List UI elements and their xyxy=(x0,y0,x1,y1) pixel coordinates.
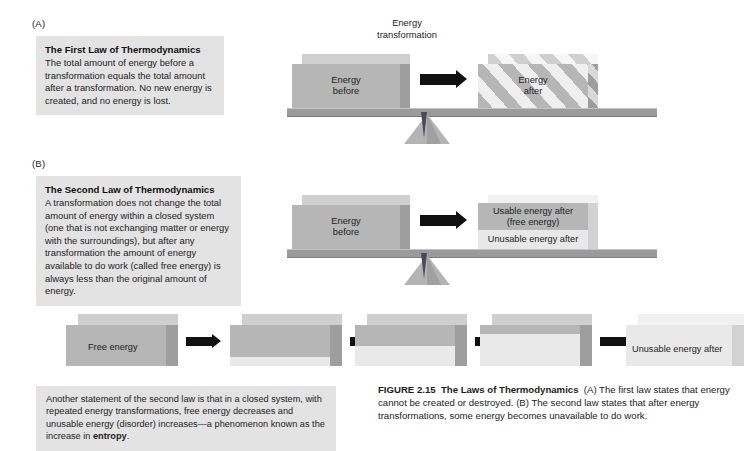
block-side-face xyxy=(732,325,744,366)
second-law-body: A transformation does not change the tot… xyxy=(45,197,232,298)
fulcrum-needle-a xyxy=(421,112,427,138)
energy-before-block-a: Energy before xyxy=(292,54,410,108)
arrow-shaft xyxy=(600,337,628,346)
block-side-face xyxy=(455,325,467,366)
block-side-face xyxy=(400,205,410,249)
block-top-face xyxy=(367,314,467,325)
sequence-block-4 xyxy=(480,314,592,366)
arrow-head xyxy=(456,70,467,88)
block-front-face: Energy after xyxy=(478,64,588,108)
panel-b-letter: (B) xyxy=(32,158,45,169)
arrow-shaft xyxy=(420,74,458,85)
second-law-title: The Second Law of Thermodynamics xyxy=(45,183,232,196)
block-front-face xyxy=(230,325,330,366)
block-top-face xyxy=(488,195,598,203)
block-side-face xyxy=(166,325,178,366)
block-top-face xyxy=(242,314,342,325)
energy-before-line2-b: before xyxy=(333,227,359,239)
free-energy-region xyxy=(480,325,580,334)
entropy-note-box: Another statement of the second law is t… xyxy=(36,386,336,451)
transformation-arrow-a xyxy=(420,70,472,88)
arrow-shaft xyxy=(420,215,458,226)
block-top-face xyxy=(302,195,410,205)
energy-before-line1-b: Energy xyxy=(331,216,360,228)
block-side-face xyxy=(588,203,598,249)
block-top-face xyxy=(488,54,598,64)
balance-beam-a xyxy=(287,108,657,117)
entropy-note-text: Another statement of the second law is t… xyxy=(46,394,325,441)
usable-energy-line1: Usable energy after xyxy=(478,206,588,217)
energy-transformation-label: Energy transformation xyxy=(352,17,462,40)
block-side-face xyxy=(580,325,592,366)
unusable-energy-after-label: Unusable energy after xyxy=(632,344,722,354)
sequence-block-2 xyxy=(230,314,342,366)
balance-beam-b xyxy=(287,249,657,258)
first-law-body: The total amount of energy before a tran… xyxy=(45,57,215,107)
energy-before-line1-a: Energy xyxy=(331,75,360,87)
free-energy-label: Free energy xyxy=(88,342,138,352)
transformation-arrow-b xyxy=(420,211,472,229)
energy-before-block-b: Energy before xyxy=(292,195,410,249)
block-front-face: Energy before xyxy=(292,205,400,249)
usable-energy-line2: (free energy) xyxy=(478,217,588,228)
energy-after-line1-a: Energy xyxy=(518,75,547,87)
unusable-energy-label: Unusable energy after xyxy=(478,234,588,245)
sequence-block-1: Free energy xyxy=(66,314,178,366)
free-energy-region xyxy=(355,325,455,346)
entropy-bold-word: entropy xyxy=(93,431,127,441)
figure-number: FIGURE 2.15 xyxy=(378,384,436,395)
second-law-box: The Second Law of Thermodynamics A trans… xyxy=(36,176,241,306)
arrow-head xyxy=(456,211,467,229)
panel-a-letter: (A) xyxy=(32,18,45,29)
first-law-title: The First Law of Thermodynamics xyxy=(45,43,215,56)
block-top-face xyxy=(492,314,592,325)
energy-after-split-block-b: Usable energy after (free energy) Unusab… xyxy=(478,195,598,249)
block-top-face xyxy=(638,314,744,325)
block-top-face xyxy=(302,54,410,64)
first-law-box: The First Law of Thermodynamics The tota… xyxy=(36,36,224,115)
sequence-arrow-1 xyxy=(186,334,228,348)
usable-energy-label: Usable energy after (free energy) xyxy=(478,206,588,227)
arrow-head xyxy=(212,334,221,348)
block-front-face xyxy=(355,325,455,366)
block-front-face: Usable energy after (free energy) Unusab… xyxy=(478,203,588,249)
energy-before-line2-a: before xyxy=(333,86,359,98)
sequence-block-5: Unusable energy after xyxy=(626,314,744,366)
energy-transformation-line2: transformation xyxy=(352,29,462,41)
energy-after-line2-a: after xyxy=(524,86,543,98)
block-side-face xyxy=(330,325,342,366)
figure-title: The Laws of Thermodynamics xyxy=(441,384,579,395)
block-top-face xyxy=(78,314,178,325)
block-front-face: Energy before xyxy=(292,64,400,108)
figure-caption: FIGURE 2.15 The Laws of Thermodynamics (… xyxy=(378,383,736,423)
arrow-shaft xyxy=(186,337,214,346)
fulcrum-shade-b xyxy=(427,255,441,285)
block-side-face xyxy=(588,64,598,108)
free-energy-region xyxy=(230,325,330,357)
entropy-note-tail: . xyxy=(127,431,130,441)
block-side-face xyxy=(400,64,410,108)
energy-transformation-line1: Energy xyxy=(352,17,462,29)
fulcrum-shade-a xyxy=(427,114,441,144)
energy-after-block-a: Energy after xyxy=(478,54,598,108)
sequence-block-3 xyxy=(355,314,467,366)
fulcrum-needle-b xyxy=(421,253,427,279)
block-front-face xyxy=(480,325,580,366)
